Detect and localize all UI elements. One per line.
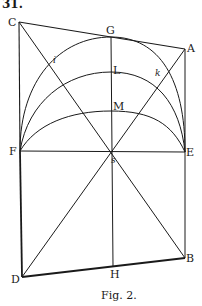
point-label-s: s <box>111 155 116 165</box>
line-AD <box>22 49 185 277</box>
point-label-F: F <box>9 145 17 158</box>
point-label-G: G <box>106 24 115 37</box>
point-label-C: C <box>8 16 16 29</box>
construction-lines <box>19 22 185 277</box>
line-FD <box>20 151 22 277</box>
arc-FME <box>20 111 185 152</box>
point-label-A: A <box>186 42 196 55</box>
point-label-M: M <box>113 100 124 113</box>
geometry-figure: 31. C G A i k L M F E s D H B Fig. 2. <box>0 0 202 306</box>
figure-caption: Fig. 2. <box>101 289 137 302</box>
point-label-i: i <box>53 55 56 65</box>
arc-FGE <box>20 37 185 152</box>
line-CG <box>19 22 111 37</box>
point-label-L: L <box>113 64 121 77</box>
point-label-D: D <box>11 273 20 286</box>
point-label-H: H <box>110 268 120 281</box>
point-label-B: B <box>186 252 194 265</box>
line-CF <box>19 22 20 151</box>
point-label-k: k <box>155 68 160 78</box>
point-label-E: E <box>186 146 194 159</box>
section-number: 31. <box>2 0 23 11</box>
line-DB <box>22 258 185 277</box>
line-CB <box>19 22 185 258</box>
line-FE <box>20 151 185 152</box>
